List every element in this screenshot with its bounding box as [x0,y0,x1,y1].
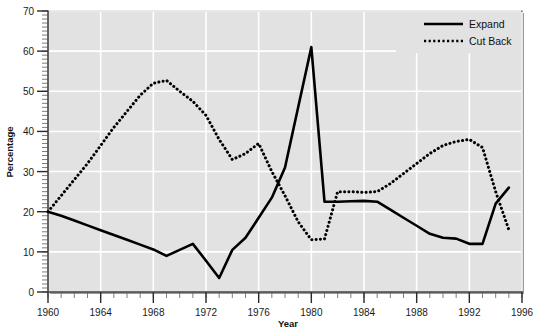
x-tick-label: 1972 [195,307,218,318]
plot-area [48,11,522,292]
x-tick-label: 1964 [90,307,113,318]
legend-label-expand: Expand [469,18,505,30]
x-tick-label: 1992 [458,307,481,318]
legend-label-cut-back: Cut Back [469,35,512,47]
y-tick-label: 70 [23,6,35,17]
y-tick-label: 0 [28,287,34,298]
x-tick-label: 1976 [248,307,271,318]
y-tick-label: 20 [23,207,35,218]
y-tick-label: 60 [23,46,35,57]
x-tick-label: 1980 [300,307,323,318]
x-tick-label: 1968 [142,307,165,318]
y-tick-label: 40 [23,126,35,137]
y-axis-title: Percentage [4,126,15,177]
x-tick-label: 1960 [37,307,60,318]
x-tick-label: 1996 [511,307,534,318]
y-tick-label: 30 [23,167,35,178]
y-tick-label: 50 [23,86,35,97]
x-tick-label: 1984 [353,307,376,318]
y-tick-label: 10 [23,247,35,258]
x-tick-label: 1988 [406,307,429,318]
legend: Expand Cut Back [396,12,521,53]
x-axis-title: Year [278,318,298,329]
line-chart: 010203040506070 196019641968197219761980… [0,0,540,334]
